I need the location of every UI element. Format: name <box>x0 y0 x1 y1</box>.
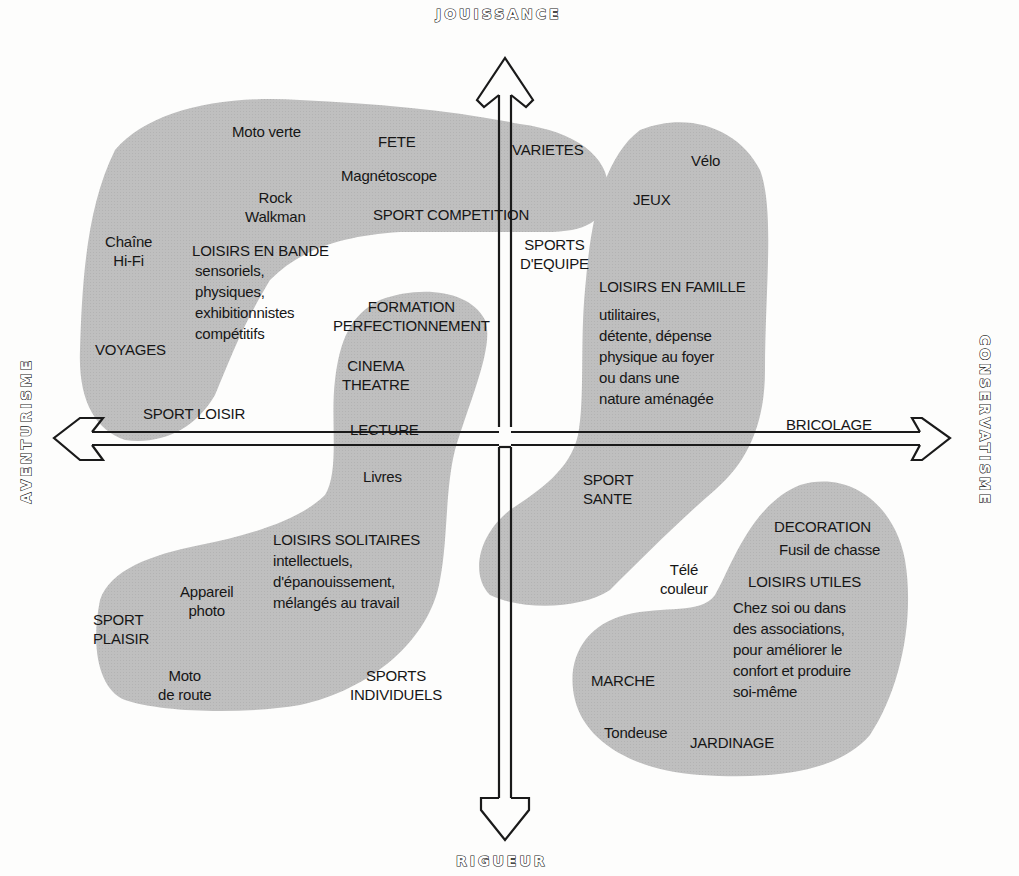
cluster-title-loisirs-utiles: LOISIRS UTILES <box>748 572 861 591</box>
axis-label-left: AVENTURISME <box>18 358 34 504</box>
quadrant-diagram <box>0 0 1019 876</box>
label-moto-verte: Moto verte <box>232 122 301 141</box>
label-lecture: LECTURE <box>350 420 419 439</box>
cluster-desc-loisirs-en-famille: utilitaires, détente, dépense physique a… <box>599 304 714 409</box>
axis-label-top: JOUISSANCE <box>436 6 562 22</box>
cluster-desc-loisirs-utiles: Chez soi ou dans des associations, pour … <box>733 597 851 702</box>
label-voyages: VOYAGES <box>95 340 166 359</box>
cluster-title-loisirs-en-bande: LOISIRS EN BANDE <box>192 241 329 260</box>
axis-label-right: CONSERVATISME <box>977 335 993 506</box>
label-bricolage: BRICOLAGE <box>786 415 872 434</box>
label-sport-plaisir: SPORT PLAISIR <box>93 610 149 648</box>
label-fete: FETE <box>378 132 416 151</box>
label-sports-equipe: SPORTS D'EQUIPE <box>520 235 589 273</box>
label-appareil-photo: Appareil photo <box>180 582 233 620</box>
label-formation-perfectionnement: FORMATION PERFECTIONNEMENT <box>333 297 490 335</box>
label-sport-sante: SPORT SANTE <box>583 470 633 508</box>
label-tondeuse: Tondeuse <box>604 723 667 742</box>
label-magnetoscope: Magnétoscope <box>341 166 437 185</box>
label-sport-competition: SPORT COMPETITION <box>373 205 529 224</box>
label-rock-walkman: Rock Walkman <box>245 188 306 226</box>
label-tele-couleur: Télé couleur <box>660 560 708 598</box>
label-varietes: VARIETES <box>512 140 583 159</box>
label-cinema-theatre: CINEMA THEATRE <box>342 356 410 394</box>
label-sport-loisir: SPORT LOISIR <box>143 404 245 423</box>
label-sports-individuels: SPORTS INDIVIDUELS <box>350 666 442 704</box>
label-moto-de-route: Moto de route <box>158 666 211 704</box>
cluster-title-loisirs-en-famille: LOISIRS EN FAMILLE <box>599 277 745 296</box>
label-chaine-hifi: Chaîne Hi-Fi <box>105 232 152 270</box>
cluster-title-loisirs-solitaires: LOISIRS SOLITAIRES <box>273 530 420 549</box>
cluster-desc-loisirs-en-bande: sensoriels, physiques, exhibitionnistes … <box>195 260 294 344</box>
label-fusil-de-chasse: Fusil de chasse <box>779 540 880 559</box>
label-velo: Vélo <box>691 151 720 170</box>
label-decoration: DECORATION <box>774 517 871 536</box>
label-livres: Livres <box>363 467 402 486</box>
label-jardinage: JARDINAGE <box>690 733 774 752</box>
label-jeux: JEUX <box>633 190 671 209</box>
axis-label-bottom: RIGUEUR <box>456 853 548 869</box>
cluster-desc-loisirs-solitaires: intellectuels, d'épanouissement, mélangé… <box>273 550 399 613</box>
label-marche: MARCHE <box>591 671 655 690</box>
